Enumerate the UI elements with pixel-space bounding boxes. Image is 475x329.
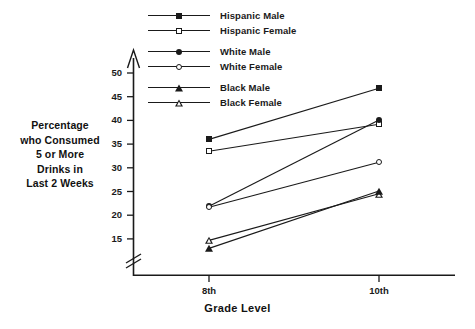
x-tick-label-8th: 8th — [189, 285, 229, 296]
series-line-white-male — [209, 120, 379, 206]
data-point-hispanic-male-8th — [206, 136, 212, 142]
legend-marker-filled-circle-icon — [148, 46, 210, 58]
y-axis-title: Percentage who Consumed 5 or More Drinks… — [8, 118, 112, 191]
legend-item-black-male: Black Male — [148, 80, 348, 95]
chart-figure: 50 45 40 35 30 25 20 15 8th 10th Grade L… — [0, 0, 475, 329]
legend-label-white-male: White Male — [210, 46, 271, 57]
y-axis-title-line-5: Last 2 Weeks — [8, 176, 112, 191]
y-axis-title-line-1: Percentage — [8, 118, 112, 133]
x-tick-marks — [209, 275, 379, 282]
data-point-white-female-10th — [376, 159, 382, 165]
legend-label-black-female: Black Female — [210, 97, 282, 108]
legend-label-hispanic-male: Hispanic Male — [210, 10, 285, 21]
chart-legend: Hispanic Male Hispanic Female White Male… — [148, 8, 348, 110]
series-line-black-male — [209, 191, 379, 248]
legend-label-black-male: Black Male — [210, 82, 270, 93]
y-axis-title-line-3: 5 or More — [8, 147, 112, 162]
legend-marker-open-square-icon — [148, 25, 210, 37]
legend-item-hispanic-male: Hispanic Male — [148, 8, 348, 23]
legend-marker-open-triangle-icon — [148, 97, 210, 109]
legend-item-white-female: White Female — [148, 59, 348, 74]
series-line-hispanic-female — [209, 124, 379, 151]
legend-label-white-female: White Female — [210, 61, 282, 72]
y-axis-title-line-2: who Consumed — [8, 133, 112, 148]
y-tick-label-45: 45 — [104, 91, 122, 102]
x-axis-title: Grade Level — [0, 302, 475, 314]
data-point-black-female-8th — [205, 237, 213, 244]
legend-marker-filled-square-icon — [148, 10, 210, 22]
x-tick-label-10th: 10th — [359, 285, 399, 296]
data-point-hispanic-female-8th — [206, 148, 212, 154]
data-point-black-male-10th — [375, 188, 383, 195]
data-point-white-male-10th — [376, 117, 382, 123]
data-point-hispanic-male-10th — [376, 85, 382, 91]
y-tick-label-15: 15 — [104, 233, 122, 244]
data-point-black-male-8th — [205, 245, 213, 252]
legend-item-white-male: White Male — [148, 44, 348, 59]
legend-item-black-female: Black Female — [148, 95, 348, 110]
legend-item-hispanic-female: Hispanic Female — [148, 23, 348, 38]
y-axis-title-line-4: Drinks in — [8, 162, 112, 177]
legend-marker-filled-triangle-icon — [148, 82, 210, 94]
series-lines — [209, 88, 379, 248]
data-point-white-female-8th — [206, 204, 212, 210]
y-tick-label-50: 50 — [104, 67, 122, 78]
y-tick-label-20: 20 — [104, 209, 122, 220]
legend-label-hispanic-female: Hispanic Female — [210, 25, 296, 36]
y-tick-marks — [127, 73, 134, 239]
legend-marker-open-circle-icon — [148, 61, 210, 73]
